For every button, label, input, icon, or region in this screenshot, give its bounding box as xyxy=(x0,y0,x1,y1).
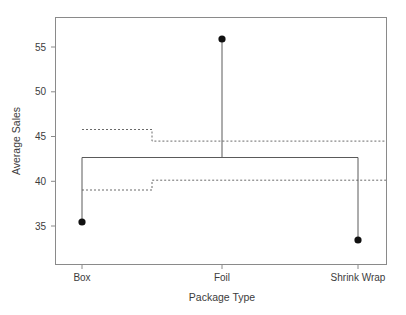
x-tick-label-shrink-wrap: Shrink Wrap xyxy=(331,272,386,283)
x-axis-title: Package Type xyxy=(189,291,256,303)
plot-frame xyxy=(56,18,387,265)
y-tick-label-50: 50 xyxy=(35,86,47,97)
y-tick-label-35: 35 xyxy=(35,221,47,232)
lower-decision-limit-line xyxy=(82,180,386,190)
anom-chart-svg: 35 40 45 50 55 Average Sales Box Foil Sh… xyxy=(0,0,406,315)
y-axis-title: Average Sales xyxy=(10,107,22,175)
upper-decision-limit-line xyxy=(82,130,386,142)
y-tick-label-45: 45 xyxy=(35,131,47,142)
x-tick-label-foil: Foil xyxy=(214,272,230,283)
x-tick-label-box: Box xyxy=(73,272,90,283)
data-point-foil[interactable] xyxy=(218,35,225,42)
data-point-shrink-wrap[interactable] xyxy=(354,236,361,243)
y-tick-label-55: 55 xyxy=(35,42,47,53)
y-axis-ticks xyxy=(51,47,56,226)
x-axis-ticks xyxy=(82,265,358,270)
y-tick-label-40: 40 xyxy=(35,176,47,187)
data-point-box[interactable] xyxy=(78,218,85,225)
chart-container: 35 40 45 50 55 Average Sales Box Foil Sh… xyxy=(0,0,406,315)
